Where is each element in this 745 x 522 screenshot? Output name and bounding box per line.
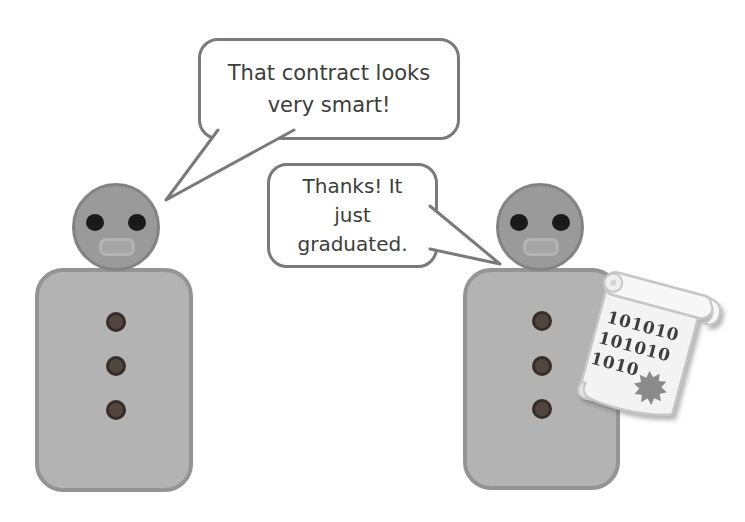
mouth-icon [523, 238, 559, 256]
coat-button [106, 356, 126, 376]
coat-button [532, 356, 552, 376]
right-eye-icon [128, 214, 146, 231]
cartoon-canvas: 101010 101010 1010 That contract looks v… [0, 0, 745, 522]
right-bubble-tail-icon [430, 206, 500, 264]
speech-bubble-left: That contract looks very smart! [198, 38, 460, 140]
left-eye-icon [510, 214, 528, 231]
bubble-text-line: That contract looks [201, 57, 457, 89]
coat-button [532, 311, 552, 331]
right-eye-icon [552, 214, 570, 231]
left-figure-head [72, 183, 160, 271]
bubble-text-line: very smart! [201, 89, 457, 121]
mouth-icon [99, 238, 135, 256]
left-eye-icon [86, 214, 104, 231]
right-figure-head [496, 183, 584, 271]
bubble-text-line: just [270, 201, 435, 230]
bubble-text-line: Thanks! It [270, 172, 435, 201]
bubble-text-line: graduated. [270, 230, 435, 259]
coat-button [106, 400, 126, 420]
left-figure-body [35, 268, 193, 492]
contract-scroll: 101010 101010 1010 [575, 260, 745, 460]
speech-bubble-right: Thanks! It just graduated. [267, 163, 438, 268]
coat-button [106, 312, 126, 332]
coat-button [532, 399, 552, 419]
